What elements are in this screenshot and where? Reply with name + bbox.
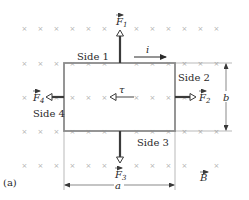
field-x-marker: × — [198, 60, 204, 68]
field-x-marker: × — [70, 94, 76, 102]
field-x-marker: × — [214, 162, 220, 170]
field-x-marker: × — [70, 162, 76, 170]
field-x-marker: × — [134, 94, 140, 102]
field-x-marker: × — [102, 162, 108, 170]
svg-text:F4: F4 — [32, 92, 44, 105]
field-x-marker: × — [38, 128, 44, 136]
field-x-marker: × — [102, 25, 108, 33]
field-x-marker: × — [38, 60, 44, 68]
torque-label: τ — [119, 84, 125, 95]
svg-text:F2: F2 — [198, 92, 211, 105]
field-x-marker: × — [182, 128, 188, 136]
field-x-marker: × — [166, 162, 172, 170]
field-x-marker: × — [38, 25, 44, 33]
field-x-marker: × — [86, 94, 92, 102]
force-f4-label: F4 — [32, 91, 44, 105]
field-x-marker: × — [70, 25, 76, 33]
field-x-marker: × — [22, 128, 28, 136]
field-x-marker: × — [198, 128, 204, 136]
field-x-marker: × — [38, 162, 44, 170]
field-x-marker: × — [22, 60, 28, 68]
field-b-label: B — [199, 172, 208, 183]
field-x-marker: × — [150, 162, 156, 170]
force-f2-label: F2 — [198, 91, 211, 105]
svg-text:B: B — [199, 172, 207, 183]
panel-label: (a) — [3, 177, 17, 188]
field-x-marker: × — [134, 162, 140, 170]
field-x-marker: × — [22, 162, 28, 170]
dimension-b-label: b — [223, 92, 229, 103]
field-x-marker: × — [134, 25, 140, 33]
dimension-a-label: a — [115, 180, 121, 191]
current-loop-diagram: ××××××××××××××××××××××××××××××××××××××××… — [0, 0, 249, 200]
field-x-marker: × — [54, 162, 60, 170]
svg-text:F1: F1 — [115, 16, 127, 29]
field-x-marker: × — [54, 25, 60, 33]
side-4-label: Side 4 — [33, 108, 65, 119]
field-x-marker: × — [166, 25, 172, 33]
current-label: i — [146, 44, 149, 55]
side-3-label: Side 3 — [137, 137, 169, 148]
field-x-marker: × — [22, 94, 28, 102]
force-f1-label: F1 — [115, 15, 127, 29]
field-x-marker: × — [182, 162, 188, 170]
field-x-marker: × — [54, 60, 60, 68]
field-x-marker: × — [86, 162, 92, 170]
side-1-label: Side 1 — [77, 51, 109, 62]
field-x-marker: × — [150, 94, 156, 102]
field-x-marker: × — [214, 128, 220, 136]
field-x-marker: × — [86, 25, 92, 33]
field-x-marker: × — [150, 25, 156, 33]
field-x-marker: × — [214, 60, 220, 68]
side-2-label: Side 2 — [178, 72, 210, 83]
field-x-marker: × — [182, 60, 188, 68]
field-x-marker: × — [198, 25, 204, 33]
field-x-marker: × — [182, 25, 188, 33]
field-x-marker: × — [54, 128, 60, 136]
field-x-marker: × — [102, 94, 108, 102]
field-x-marker: × — [22, 25, 28, 33]
field-x-marker: × — [166, 94, 172, 102]
field-x-marker: × — [214, 25, 220, 33]
